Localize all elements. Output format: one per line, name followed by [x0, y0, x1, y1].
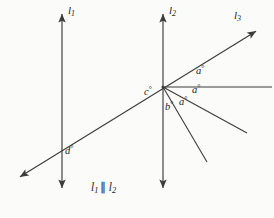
label-angle-a-middle: a° — [192, 84, 201, 96]
ray-middle — [163, 87, 247, 133]
label-line-l1: l1 — [68, 5, 75, 18]
label-angle-c: c° — [144, 86, 152, 98]
label-angle-b: b° — [165, 101, 174, 113]
geometry-figure: l1 l2 l3 a° a° a° b° c° d° l1∥l2 — [0, 0, 274, 218]
line-l3-transversal — [20, 31, 256, 177]
label-angle-a-upper: a° — [196, 65, 205, 77]
vertex-point — [162, 86, 165, 89]
figure-canvas — [0, 0, 274, 218]
label-line-l3: l3 — [234, 10, 241, 23]
label-angle-d: d° — [65, 145, 74, 157]
caption-parallel-statement: l1∥l2 — [91, 182, 116, 196]
parallel-symbol: ∥ — [98, 181, 109, 193]
label-line-l2: l2 — [169, 5, 176, 18]
label-angle-a-lower: a° — [179, 96, 188, 108]
